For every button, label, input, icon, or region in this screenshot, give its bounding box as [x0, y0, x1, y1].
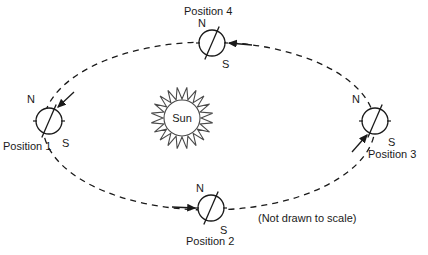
position-4-south-pole-label: S [222, 58, 229, 70]
position-3-group: NSPosition 3 [352, 93, 416, 160]
sun-label: Sun [172, 112, 192, 124]
earth-orbit-diagram: Sun NSPosition 1NSPosition 2NSPosition 3… [0, 0, 428, 255]
diagram-canvas: Sun NSPosition 1NSPosition 2NSPosition 3… [0, 0, 428, 255]
sun-group: Sun [151, 87, 212, 148]
position-1-group: NSPosition 1 [3, 92, 74, 152]
position-4-group: NSPosition 4 [184, 5, 252, 70]
position-3-north-pole-label: N [352, 93, 360, 105]
position-1-south-pole-label: S [62, 137, 69, 149]
orbit-ellipse [43, 42, 375, 210]
position-2-group: NSPosition 2 [172, 182, 234, 247]
position-3-direction-arrow-icon [352, 135, 367, 152]
not-to-scale-note: (Not drawn to scale) [258, 212, 356, 224]
position-2-north-pole-label: N [196, 182, 204, 194]
position-2-label: Position 2 [186, 235, 234, 247]
position-4-direction-arrow-icon [229, 43, 252, 45]
position-4-north-pole-label: N [198, 17, 206, 29]
position-4-label: Position 4 [184, 5, 232, 17]
position-1-direction-arrow-icon [58, 92, 74, 107]
position-3-label: Position 3 [368, 148, 416, 160]
earth-positions-layer: NSPosition 1NSPosition 2NSPosition 3NSPo… [3, 5, 416, 247]
position-1-label: Position 1 [3, 140, 51, 152]
orbit-path-group [43, 42, 375, 210]
position-1-north-pole-label: N [27, 93, 35, 105]
position-3-south-pole-label: S [388, 136, 395, 148]
